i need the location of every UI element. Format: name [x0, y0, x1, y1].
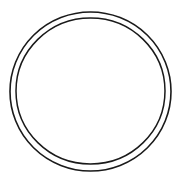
canvas-background	[0, 0, 182, 191]
figure-canvas	[0, 0, 182, 191]
concentric-circles-drawing	[0, 0, 182, 191]
